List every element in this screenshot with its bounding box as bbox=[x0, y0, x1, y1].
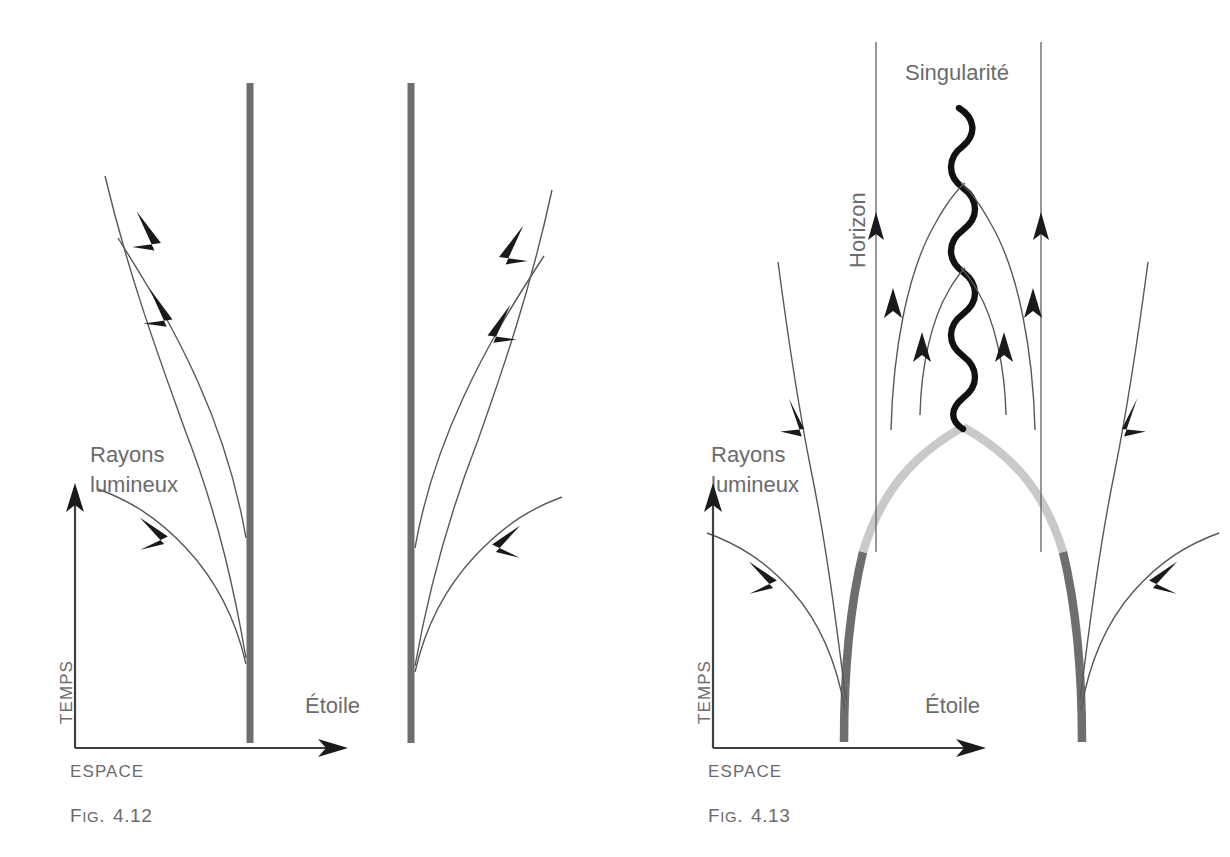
escaping-ray-right-2 bbox=[1081, 533, 1219, 710]
light-ray-right-3 bbox=[415, 497, 562, 672]
rays-label-line1: Rayons bbox=[711, 442, 786, 467]
figure-caption: FIG. 4.12 bbox=[70, 805, 152, 826]
axes-group: TEMPS ESPACE bbox=[57, 483, 348, 781]
caption-number: 4.13 bbox=[751, 805, 790, 826]
trapped-ray-inner-left bbox=[920, 268, 965, 415]
figure-4-12-canvas: Rayons lumineux Étoile TEMPS ESPACE FIG.… bbox=[0, 0, 615, 857]
light-rays-right-group bbox=[415, 190, 562, 672]
figure-4-13-canvas: Singularité Horizon bbox=[615, 0, 1230, 857]
horizon-label: Horizon bbox=[845, 192, 870, 268]
caption-number: 4.12 bbox=[113, 805, 152, 826]
figure-caption: FIG. 4.13 bbox=[708, 805, 790, 826]
trapped-ray-outer-left bbox=[891, 183, 965, 430]
escaping-ray-left-2 bbox=[707, 533, 845, 710]
star-worldline-left bbox=[247, 83, 254, 743]
caption-fig-word: FIG. bbox=[70, 805, 105, 826]
star-surface-right-below-horizon bbox=[1063, 552, 1082, 742]
space-axis-label: ESPACE bbox=[70, 762, 144, 781]
light-ray-left-1 bbox=[105, 176, 246, 658]
light-ray-left-1-arrowhead bbox=[130, 210, 162, 252]
escaping-ray-left-2-arrowhead bbox=[745, 561, 778, 596]
trapped-ray-outer-right-arrowhead bbox=[1024, 288, 1042, 318]
space-axis-label: ESPACE bbox=[708, 762, 782, 781]
singularity-label: Singularité bbox=[905, 60, 1009, 85]
rays-label-line1: Rayons bbox=[90, 442, 165, 467]
figure-4-13: Singularité Horizon bbox=[615, 0, 1230, 857]
light-ray-left-3-arrowhead bbox=[136, 517, 169, 552]
light-rays-left-group bbox=[98, 176, 246, 664]
light-ray-right-3-arrowhead bbox=[490, 525, 523, 560]
star-label: Étoile bbox=[305, 693, 360, 718]
figure-page: Rayons lumineux Étoile TEMPS ESPACE FIG.… bbox=[0, 0, 1230, 857]
star-surface-right-above-horizon bbox=[963, 427, 1063, 552]
rays-label-line2: lumineux bbox=[90, 472, 178, 497]
star-label: Étoile bbox=[925, 693, 980, 718]
rays-label-line2: lumineux bbox=[711, 472, 799, 497]
trapped-rays-group bbox=[884, 183, 1042, 430]
figure-4-12: Rayons lumineux Étoile TEMPS ESPACE FIG.… bbox=[0, 0, 615, 857]
light-ray-right-1-arrowhead bbox=[499, 224, 531, 266]
time-axis-label: TEMPS bbox=[695, 660, 714, 724]
star-worldline-right bbox=[408, 83, 415, 743]
time-axis-label: TEMPS bbox=[57, 660, 76, 724]
escaping-ray-right-1 bbox=[1080, 262, 1148, 700]
escaping-ray-right-2-arrowhead bbox=[1147, 561, 1180, 596]
star-surface-left-below-horizon bbox=[844, 552, 863, 742]
star-surface-left-above-horizon bbox=[863, 427, 963, 552]
light-ray-right-1 bbox=[415, 190, 552, 666]
light-ray-left-3 bbox=[98, 489, 246, 664]
caption-fig-word: FIG. bbox=[708, 805, 743, 826]
trapped-ray-outer-left-arrowhead bbox=[884, 288, 902, 318]
singularity-wavy-line bbox=[951, 108, 975, 429]
